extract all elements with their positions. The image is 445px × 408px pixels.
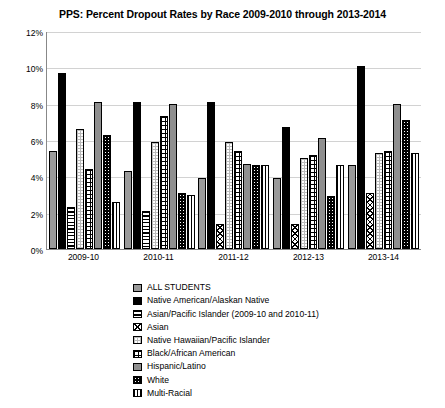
legend-item: Native American/Alaskan Native bbox=[133, 294, 433, 307]
legend-label: White bbox=[147, 376, 169, 385]
bar bbox=[58, 73, 66, 249]
bar bbox=[49, 151, 57, 249]
legend-swatch bbox=[133, 336, 142, 344]
legend-swatch bbox=[133, 350, 142, 358]
bar bbox=[124, 171, 132, 249]
bar bbox=[252, 165, 260, 249]
bar bbox=[187, 195, 195, 250]
bar bbox=[142, 211, 150, 249]
legend-swatch bbox=[133, 297, 142, 305]
bar bbox=[103, 135, 111, 249]
bar bbox=[94, 102, 102, 249]
x-axis-tick-label: 2010-11 bbox=[121, 252, 196, 262]
bar bbox=[169, 104, 177, 249]
legend-label: Asian/Pacific Islander (2009-10 and 2010… bbox=[147, 310, 319, 319]
legend-swatch bbox=[133, 363, 142, 371]
bar bbox=[178, 193, 186, 249]
bar bbox=[207, 102, 215, 249]
legend-swatch bbox=[133, 376, 142, 384]
bar bbox=[225, 142, 233, 249]
legend-label: Hispanic/Latino bbox=[147, 362, 206, 371]
bar bbox=[85, 169, 93, 249]
bar-group bbox=[47, 32, 122, 249]
y-axis-tick-label: 0% bbox=[31, 246, 43, 256]
chart-title: PPS: Percent Dropout Rates by Race 2009-… bbox=[0, 8, 445, 20]
bar bbox=[411, 153, 419, 249]
legend-swatch bbox=[133, 284, 142, 292]
bar bbox=[198, 178, 206, 249]
x-axis-tick-label: 2013-14 bbox=[346, 252, 421, 262]
bar bbox=[243, 164, 251, 249]
chart-legend: ALL STUDENTSNative American/Alaskan Nati… bbox=[133, 281, 433, 400]
bar bbox=[357, 66, 365, 249]
bar-group bbox=[271, 32, 346, 249]
legend-swatch bbox=[133, 323, 142, 331]
bar bbox=[234, 151, 242, 249]
bar bbox=[291, 224, 299, 249]
x-axis-tick-label: 2011-12 bbox=[196, 252, 271, 262]
legend-label: Asian bbox=[147, 323, 169, 332]
bar bbox=[393, 104, 401, 249]
bar bbox=[76, 129, 84, 249]
bar bbox=[309, 155, 317, 249]
legend-swatch bbox=[133, 310, 142, 318]
legend-item: ALL STUDENTS bbox=[133, 281, 433, 294]
dropout-rate-bar-chart: PPS: Percent Dropout Rates by Race 2009-… bbox=[0, 0, 445, 408]
legend-label: Black/African American bbox=[147, 349, 235, 358]
bar bbox=[318, 138, 326, 249]
legend-label: Multi-Racial bbox=[147, 389, 192, 398]
bar bbox=[327, 196, 335, 249]
legend-item: White bbox=[133, 373, 433, 386]
bar bbox=[160, 116, 168, 249]
plot-area: 0%2%4%6%8%10%12% bbox=[46, 32, 421, 250]
y-axis-tick-label: 6% bbox=[31, 137, 43, 147]
bar bbox=[112, 202, 120, 249]
x-axis-tick-label: 2009-10 bbox=[46, 252, 121, 262]
bar bbox=[133, 102, 141, 249]
bar-group bbox=[197, 32, 272, 249]
legend-label: ALL STUDENTS bbox=[147, 283, 211, 292]
legend-label: Native Hawaiian/Pacific Islander bbox=[147, 336, 270, 345]
bar bbox=[216, 224, 224, 249]
bar bbox=[273, 178, 281, 249]
bar bbox=[151, 142, 159, 249]
bar bbox=[282, 127, 290, 249]
bar bbox=[300, 158, 308, 249]
bar bbox=[336, 165, 344, 249]
bar-group bbox=[346, 32, 421, 249]
y-axis-tick-label: 10% bbox=[26, 64, 43, 74]
bar bbox=[261, 165, 269, 249]
legend-item: Hispanic/Latino bbox=[133, 360, 433, 373]
bar bbox=[384, 151, 392, 249]
x-axis-tick-label: 2012-13 bbox=[271, 252, 346, 262]
legend-item: Asian/Pacific Islander (2009-10 and 2010… bbox=[133, 307, 433, 320]
bar-group bbox=[122, 32, 197, 249]
legend-swatch bbox=[133, 389, 142, 397]
bar bbox=[402, 120, 410, 249]
y-axis-tick-label: 4% bbox=[31, 173, 43, 183]
x-axis-tick-labels: 2009-102010-112011-122012-132013-14 bbox=[46, 252, 421, 262]
bar bbox=[375, 153, 383, 249]
bar-groups bbox=[47, 32, 421, 249]
bar bbox=[67, 207, 75, 249]
bar bbox=[366, 193, 374, 249]
legend-item: Asian bbox=[133, 321, 433, 334]
legend-item: Multi-Racial bbox=[133, 387, 433, 400]
y-axis-tick-label: 8% bbox=[31, 101, 43, 111]
legend-label: Native American/Alaskan Native bbox=[147, 296, 269, 305]
y-axis-tick-label: 12% bbox=[26, 28, 43, 38]
y-axis-tick-label: 2% bbox=[31, 210, 43, 220]
bar bbox=[348, 165, 356, 249]
legend-item: Black/African American bbox=[133, 347, 433, 360]
gridline: 0% bbox=[47, 250, 421, 251]
legend-item: Native Hawaiian/Pacific Islander bbox=[133, 334, 433, 347]
